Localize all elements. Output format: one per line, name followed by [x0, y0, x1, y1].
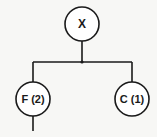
node-x-label: X	[78, 17, 86, 31]
junction-dot	[80, 60, 83, 63]
node-f: F (2)	[16, 82, 50, 116]
tree-diagram: X F (2) C (1)	[0, 0, 157, 137]
node-f-label: F (2)	[21, 93, 45, 105]
node-x: X	[65, 7, 99, 41]
node-c-label: C (1)	[120, 93, 145, 105]
node-c: C (1)	[115, 82, 149, 116]
